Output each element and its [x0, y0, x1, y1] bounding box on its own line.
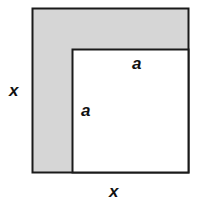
label-outer-left: x [8, 81, 20, 100]
label-outer-bottom: x [108, 182, 120, 201]
label-inner-left: a [81, 101, 90, 120]
label-inner-top: a [132, 54, 141, 73]
square-diagram: x x a a [0, 0, 199, 207]
